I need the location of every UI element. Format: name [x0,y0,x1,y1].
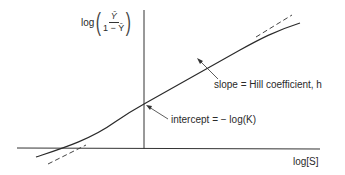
upper-asymptote-dashed [256,15,292,37]
intercept-annotation: intercept = − log(K) [171,114,256,125]
intercept-arrow [149,107,168,119]
left-paren: ( [96,9,101,35]
y-axis-label: log ( Ȳ 1 − Ȳ ) [81,9,133,35]
hill-curve [36,23,300,157]
slope-annotation: slope = Hill coefficient, h [214,79,322,90]
x-axis-label: log[S] [293,156,319,167]
intercept-arrowhead [146,105,152,110]
right-paren: ) [126,9,131,35]
y-axis-numerator: Ȳ [109,11,119,23]
y-axis-log: log [81,17,94,28]
y-axis-fraction: Ȳ 1 − Ȳ [103,11,124,34]
y-axis-denominator: 1 − Ȳ [103,23,124,34]
